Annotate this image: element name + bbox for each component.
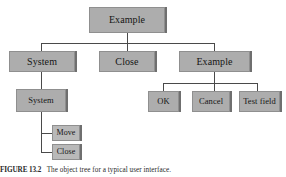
tree-diagram: Example System Close Example System OK C… (0, 0, 286, 166)
node-cancel[interactable]: Cancel (192, 91, 230, 112)
figure-caption: FIGURE 13.2 The object tree for a typica… (0, 166, 286, 177)
connector-to-example (214, 43, 215, 51)
node-label: Move (56, 129, 75, 137)
connector-level3-bus (163, 83, 257, 84)
figure-caption-text: The object tree for a typical user inter… (47, 166, 171, 174)
node-label: Example (109, 15, 145, 25)
node-move[interactable]: Move (52, 125, 80, 141)
node-label: System (28, 96, 54, 105)
node-system[interactable]: System (9, 51, 75, 72)
connector-to-system (41, 43, 42, 51)
connector-system-spine (41, 112, 42, 152)
node-label: Close (57, 148, 76, 156)
node-test-field[interactable]: Test field (239, 91, 280, 112)
node-label: Cancel (199, 97, 223, 106)
connector-elbow-close (41, 152, 52, 153)
node-label: Close (115, 57, 138, 67)
node-root-example[interactable]: Example (89, 7, 165, 33)
connector-elbow-move (41, 133, 52, 134)
figure-number: FIGURE 13.2 (0, 166, 41, 174)
node-label: Test field (243, 97, 276, 106)
connector-to-close (127, 43, 128, 51)
connector-to-ok (163, 83, 164, 91)
connector-root-stem (127, 33, 128, 43)
node-example-branch[interactable]: Example (179, 51, 250, 72)
node-label: System (27, 57, 57, 67)
node-close-child[interactable]: Close (52, 144, 80, 160)
connector-example-stem (214, 71, 215, 83)
connector-to-cancel (214, 83, 215, 91)
node-label: OK (157, 97, 169, 106)
node-close[interactable]: Close (99, 51, 155, 72)
connector-to-test-field (257, 83, 258, 91)
node-ok[interactable]: OK (148, 91, 179, 112)
connector-system-to-system (41, 71, 42, 89)
node-system-child[interactable]: System (16, 89, 66, 112)
node-label: Example (196, 57, 232, 67)
